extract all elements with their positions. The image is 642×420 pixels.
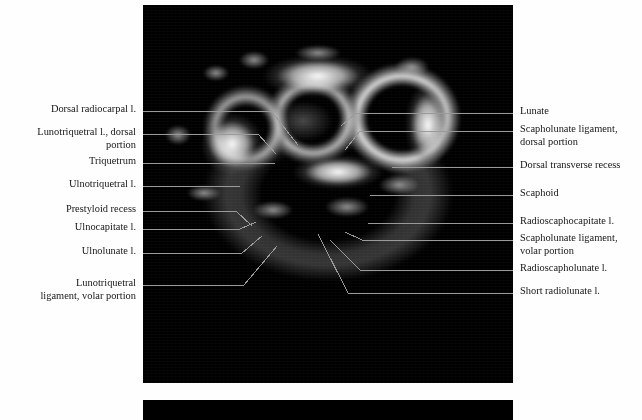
label-triquetrum: Triquetrum bbox=[0, 155, 136, 168]
label-ulnotriquetral-l: Ulnotriquetral l. bbox=[0, 178, 136, 191]
radial-cortex-band bbox=[405, 83, 451, 167]
tissue-speck bbox=[379, 175, 419, 195]
label-ulnolunate-l: Ulnolunate l. bbox=[0, 245, 136, 258]
label-scaphoid: Scaphoid bbox=[520, 187, 642, 200]
label-lunotriquetral-ligament-volar-portion: Lunotriquetral ligament, volar portion bbox=[0, 277, 136, 302]
mri-image-panel-bottom bbox=[143, 400, 513, 420]
label-dorsal-transverse-recess: Dorsal transverse recess bbox=[520, 159, 642, 172]
label-radioscaphocapitate-l: Radioscaphocapitate l. bbox=[520, 215, 642, 228]
label-lunotriquetral-l-dorsal-portion: Lunotriquetral l., dorsal portion bbox=[0, 126, 136, 151]
label-scapholunate-ligament-volar-portion: Scapholunate ligament, volar portion bbox=[520, 232, 642, 257]
label-short-radiolunate-l: Short radiolunate l. bbox=[520, 285, 642, 298]
volar-ligament-band bbox=[293, 155, 383, 189]
mri-image-panel-top bbox=[143, 5, 513, 383]
tissue-speck bbox=[239, 51, 269, 69]
label-dorsal-radiocarpal-l: Dorsal radiocarpal l. bbox=[0, 103, 136, 116]
tissue-speck bbox=[203, 65, 229, 81]
tissue-speck bbox=[395, 57, 429, 77]
label-radioscapholunate-l: Radioscapholunate l. bbox=[520, 262, 642, 275]
capitate-region bbox=[273, 101, 333, 141]
label-scapholunate-ligament-dorsal-portion: Scapholunate ligament, dorsal portion bbox=[520, 123, 642, 148]
anatomical-figure: Dorsal radiocarpal l.Lunotriquetral l., … bbox=[0, 0, 642, 420]
tissue-speck bbox=[253, 201, 293, 219]
mri-scan-image bbox=[143, 5, 513, 383]
dorsal-ligament-band bbox=[263, 55, 373, 97]
tissue-speck bbox=[165, 125, 191, 145]
ulnar-ligament-complex bbox=[201, 113, 263, 175]
tissue-speck bbox=[187, 185, 221, 201]
label-prestyloid-recess: Prestyloid recess bbox=[0, 203, 136, 216]
tissue-speck bbox=[295, 45, 341, 61]
label-ulnocapitate-l: Ulnocapitate l. bbox=[0, 221, 136, 234]
label-lunate: Lunate bbox=[520, 105, 642, 118]
tissue-speck bbox=[325, 197, 369, 217]
